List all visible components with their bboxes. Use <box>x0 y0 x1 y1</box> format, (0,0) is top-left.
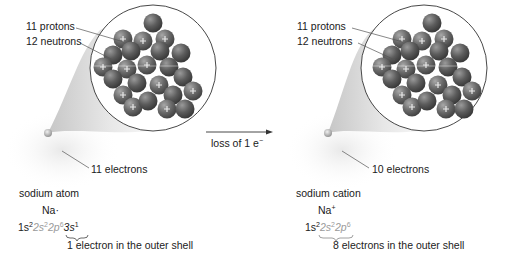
arrow-label: loss of 1 e− <box>211 137 263 149</box>
species-symbol: Na· <box>42 204 59 216</box>
atom-dot <box>324 129 332 137</box>
protons-label: 11 protons <box>297 20 346 32</box>
species-name: sodium atom <box>19 187 79 199</box>
electrons-label: 10 electrons <box>372 163 429 175</box>
outer-shell-note: 8 electrons in the outer shell <box>333 239 464 251</box>
outer-shell-note: 1 electron in the outer shell <box>67 239 193 251</box>
species-name: sodium cation <box>296 187 361 199</box>
atom-dot <box>44 129 52 137</box>
electrons-label: 11 electrons <box>91 163 147 175</box>
electron-configuration: 1s22s22p63s1 <box>18 221 79 233</box>
protons-label: 11 protons <box>26 20 75 32</box>
electron-configuration: 1s22s22p6 <box>305 221 351 233</box>
species-symbol: Na+ <box>318 204 336 216</box>
reaction-arrow <box>206 130 273 135</box>
neutrons-label: 12 neutrons <box>26 35 81 47</box>
neutrons-label: 12 neutrons <box>297 35 352 47</box>
